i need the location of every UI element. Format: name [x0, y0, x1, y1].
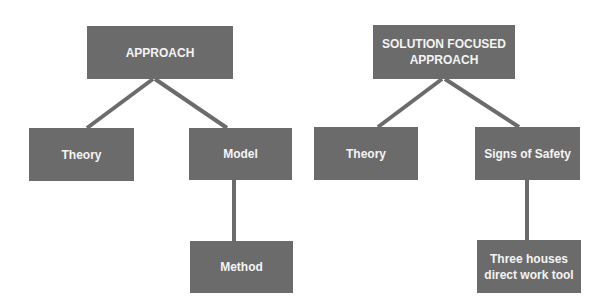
node-theory-left: Theory	[29, 128, 134, 181]
node-theory-left-label: Theory	[61, 147, 101, 163]
node-theory-right-label: Theory	[346, 146, 386, 162]
node-sfa-label-line1: SOLUTION FOCUSED	[382, 36, 506, 52]
node-method-label: Method	[220, 259, 263, 275]
node-model: Model	[189, 128, 292, 180]
diagram-canvas: APPROACH Theory Model Method SOLUTION FO…	[0, 0, 604, 308]
node-signs-of-safety: Signs of Safety	[475, 127, 580, 180]
connector-sfa-theory	[378, 79, 442, 127]
node-three-houses: Three houses direct work tool	[477, 240, 581, 293]
node-approach: APPROACH	[87, 26, 233, 79]
node-method: Method	[190, 241, 293, 293]
connector-approach-model	[155, 79, 227, 128]
node-solution-focused-approach: SOLUTION FOCUSED APPROACH	[373, 25, 515, 79]
node-signs-of-safety-label: Signs of Safety	[484, 146, 571, 162]
connector-sfa-signs-of-safety	[445, 79, 519, 127]
node-three-houses-label-line2: direct work tool	[484, 267, 573, 283]
node-three-houses-label-line1: Three houses	[490, 251, 568, 267]
node-sfa-label-line2: APPROACH	[410, 52, 479, 68]
node-model-label: Model	[223, 146, 258, 162]
connector-approach-theory	[87, 79, 153, 128]
node-approach-label: APPROACH	[126, 45, 195, 61]
node-theory-right: Theory	[314, 127, 418, 180]
